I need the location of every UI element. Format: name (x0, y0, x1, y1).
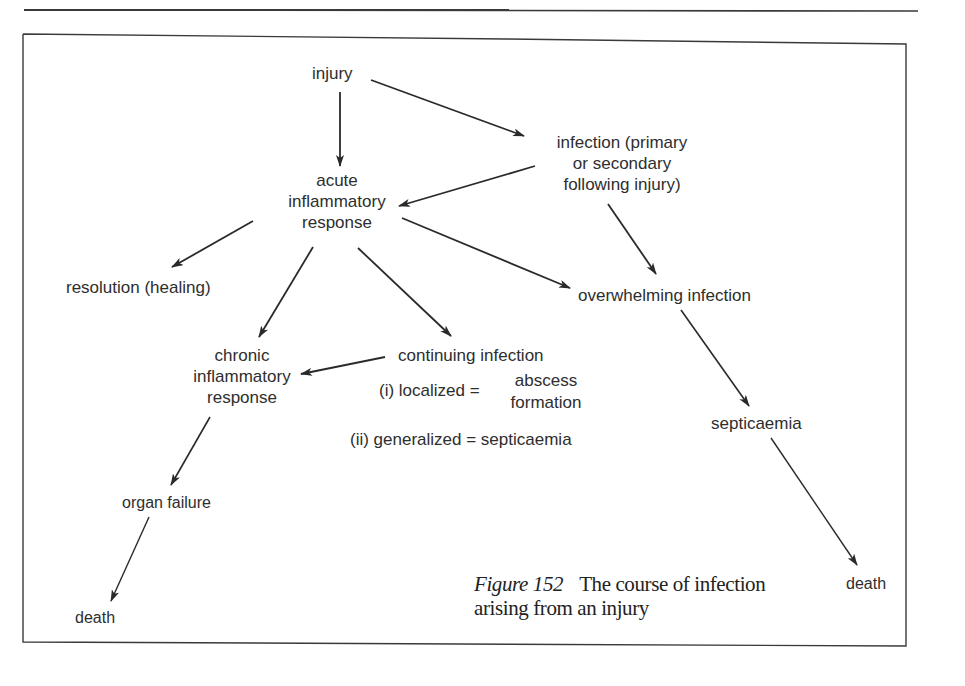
node-chronic-line2: inflammatory (177, 366, 307, 387)
node-abscess-line2: formation (506, 392, 586, 414)
arrow-organ-failure-to-death (111, 517, 149, 601)
node-generalized: (ii) generalized = septicaemia (350, 429, 572, 450)
node-localized: (i) localized = (379, 380, 480, 401)
arrow-injury-to-infection (371, 80, 524, 136)
caption-text-line1: The course of infection (579, 572, 765, 596)
arrow-infection-to-acute (399, 166, 535, 206)
node-acute-line1: acute (272, 170, 402, 191)
arrow-acute-to-resolution (172, 221, 253, 267)
node-resolution: resolution (healing) (66, 277, 211, 298)
arrow-acute-to-chronic (259, 247, 313, 337)
node-acute-inflammatory-response: acute inflammatory response (272, 170, 402, 233)
node-acute-line2: inflammatory (272, 191, 402, 212)
node-chronic-line3: response (177, 387, 307, 408)
figure-frame (23, 34, 906, 646)
caption-line2: arising from an injury (474, 596, 765, 620)
node-chronic-line1: chronic (177, 345, 307, 366)
node-chronic-inflammatory-response: chronic inflammatory response (177, 345, 307, 408)
arrow-acute-to-continuing (358, 248, 451, 336)
node-death-left: death (75, 607, 115, 628)
node-acute-line3: response (272, 212, 402, 233)
node-infection: infection (primary or secondary followin… (532, 132, 712, 195)
arrow-septicaemia-to-death (771, 438, 857, 565)
figure-number: Figure 152 (474, 572, 563, 596)
arrow-continuing-to-chronic (301, 357, 385, 374)
arrow-infection-to-overwhelming (608, 204, 656, 274)
node-continuing-infection: continuing infection (398, 345, 544, 366)
arrow-chronic-to-organ-failure (171, 417, 210, 485)
node-abscess-line1: abscess (506, 370, 586, 392)
node-abscess-formation: abscess formation (506, 370, 586, 414)
node-organ-failure: organ failure (122, 492, 211, 513)
caption-line1: Figure 152The course of infection (474, 572, 765, 596)
node-injury: injury (312, 63, 353, 84)
page-top-rule (24, 10, 918, 11)
arrow-acute-to-overwhelming (402, 218, 570, 288)
node-septicaemia: septicaemia (711, 413, 802, 434)
arrow-overwhelming-to-septicaemia (681, 310, 749, 406)
node-infection-line2: or secondary (532, 153, 712, 174)
node-infection-line1: infection (primary (532, 132, 712, 153)
node-death-right: death (846, 573, 886, 594)
node-infection-line3: following injury) (532, 174, 712, 195)
figure-caption: Figure 152The course of infection arisin… (474, 572, 765, 620)
node-overwhelming-infection: overwhelming infection (578, 285, 751, 306)
